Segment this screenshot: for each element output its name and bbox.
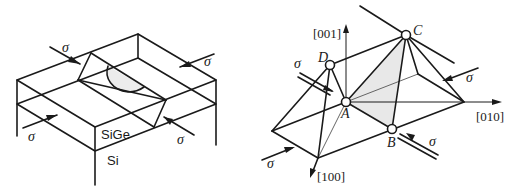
axis-001-label: [001] (313, 26, 341, 41)
stress-label: σ (28, 129, 36, 144)
edge-d-left (272, 65, 330, 131)
stress-label: σ (294, 56, 302, 71)
right-panel-octahedron: σ σ σ σ A B C D [001] [010] [100] (262, 6, 504, 184)
vertex-c (402, 31, 411, 40)
axis-001 (343, 24, 349, 102)
vertex-c-label: C (413, 23, 423, 38)
edge-d-a (330, 65, 346, 102)
vertex-a-label: A (340, 106, 350, 121)
stress-label: σ (429, 134, 437, 149)
stress-label: σ (177, 132, 185, 147)
edge-c-right (406, 35, 464, 102)
figure-canvas: σ σ σ σ SiGe Si (0, 0, 519, 195)
stress-label: σ (267, 156, 275, 171)
stress-label: σ (62, 40, 70, 55)
vertex-d-label: D (317, 50, 328, 65)
vertex-b (388, 125, 397, 134)
slip-line-top (91, 53, 166, 100)
axis-100-label: [100] (317, 169, 345, 184)
stress-label: σ (466, 70, 474, 85)
stress-label: σ (204, 54, 212, 69)
si-substrate-label: Si (107, 153, 119, 168)
left-panel-sige-on-si: σ σ σ σ SiGe Si (17, 34, 216, 185)
line-c-extension-up (360, 6, 406, 35)
base-edge-left-a (272, 102, 346, 131)
axis-010-label: [010] (476, 109, 504, 124)
vertex-b-label: B (387, 135, 396, 150)
sige-layer-label: SiGe (101, 127, 130, 142)
